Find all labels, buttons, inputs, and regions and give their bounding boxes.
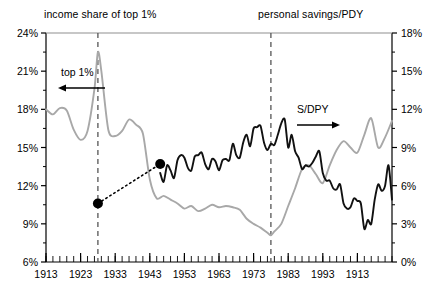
- x-axis-tick-4: 1953: [173, 268, 197, 280]
- left-axis-tick-labels: 6%9%12%15%18%21%24%: [17, 27, 38, 268]
- chart-left-axis-title: income share of top 1%: [44, 8, 157, 20]
- right-axis-tick-9pct: 9%: [401, 142, 416, 154]
- x-axis-tick-3: 1943: [138, 268, 162, 280]
- annotation-s-dpy-label: S/DPY: [297, 103, 329, 115]
- x-axis-tick-8: 1993: [311, 268, 335, 280]
- left-axis-tick-21pct: 21%: [17, 65, 38, 77]
- axis-tick-marks: [41, 33, 397, 262]
- right-axis-tick-6pct: 6%: [401, 180, 416, 192]
- chart-canvas: 6%9%12%15%18%21%24% 0%3%6%9%12%15%18% 19…: [0, 0, 437, 294]
- x-axis-tick-9: 1913: [346, 268, 370, 280]
- right-arrow-icon: [297, 122, 340, 129]
- annotation-s-dpy: S/DPY: [297, 103, 340, 128]
- data-point-1946: [155, 159, 165, 169]
- right-axis-tick-18pct: 18%: [401, 27, 422, 39]
- axis-lines: [46, 33, 392, 262]
- chart-figure: income share of top 1% personal savings/…: [0, 0, 437, 294]
- series-line-personal-savings-pdy: [160, 118, 392, 229]
- x-axis-tick-5: 1963: [207, 268, 231, 280]
- x-axis-tick-labels: 1913192319331943195319631973198319931913: [34, 268, 369, 280]
- x-axis-tick-7: 1983: [277, 268, 301, 280]
- right-axis-tick-12pct: 12%: [401, 103, 422, 115]
- annotation-top-1-percent-label: top 1%: [61, 66, 94, 78]
- left-axis-tick-18pct: 18%: [17, 103, 38, 115]
- x-axis-tick-6: 1973: [242, 268, 266, 280]
- right-axis-tick-15pct: 15%: [401, 65, 422, 77]
- vertical-reference-lines: [98, 33, 271, 262]
- left-axis-tick-24pct: 24%: [17, 27, 38, 39]
- right-axis-tick-3pct: 3%: [401, 218, 416, 230]
- left-axis-tick-6pct: 6%: [23, 256, 38, 268]
- x-axis-tick-2: 1933: [104, 268, 128, 280]
- left-axis-tick-15pct: 15%: [17, 142, 38, 154]
- x-axis-tick-0: 1913: [34, 268, 58, 280]
- left-axis-tick-12pct: 12%: [17, 180, 38, 192]
- right-axis-tick-labels: 0%3%6%9%12%15%18%: [401, 27, 422, 268]
- chart-right-axis-title: personal savings/PDY: [258, 8, 363, 20]
- right-axis-tick-0pct: 0%: [401, 256, 416, 268]
- x-axis-tick-1: 1923: [69, 268, 93, 280]
- data-point-1928: [93, 198, 103, 208]
- left-axis-tick-9pct: 9%: [23, 218, 38, 230]
